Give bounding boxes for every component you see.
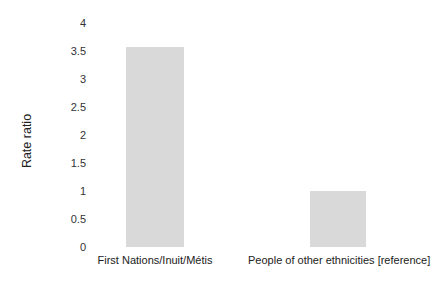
bar-reference [310, 191, 366, 247]
y-tick: 2 [80, 129, 86, 141]
y-tick: 4 [80, 17, 86, 29]
y-tick: 3.5 [71, 45, 86, 57]
y-tick: 0 [80, 241, 86, 253]
y-tick: 1.5 [71, 157, 86, 169]
y-tick: 1 [80, 185, 86, 197]
y-tick: 3 [80, 73, 86, 85]
x-tick-label: First Nations/Inuit/Métis [95, 254, 215, 266]
y-tick: 0.5 [71, 213, 86, 225]
x-tick-label: People of other ethnicities [reference] [248, 254, 428, 266]
bar-first-nations [126, 47, 184, 247]
y-axis: 0 0.5 1 1.5 2 2.5 3 3.5 4 [30, 0, 86, 285]
y-tick: 2.5 [71, 101, 86, 113]
